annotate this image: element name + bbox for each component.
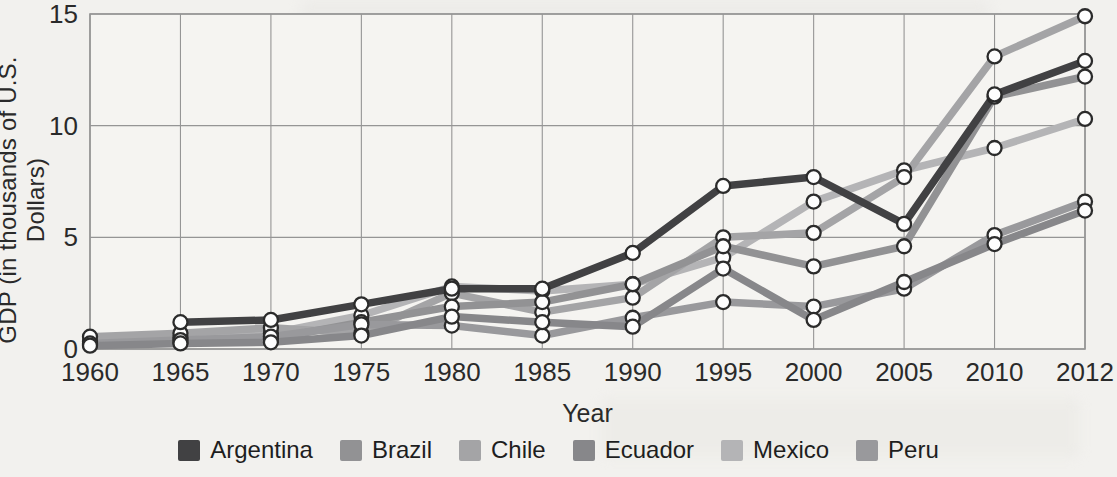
y-tick-label: 15: [49, 0, 78, 29]
legend-item-brazil: Brazil: [340, 436, 432, 464]
data-point-ecuador: [988, 237, 1002, 251]
legend-item-chile: Chile: [459, 436, 546, 464]
data-point-ecuador: [716, 262, 730, 276]
data-point-brazil: [716, 239, 730, 253]
data-point-brazil: [807, 259, 821, 273]
legend-swatch-icon: [573, 440, 595, 461]
data-point-brazil: [897, 239, 911, 253]
data-point-argentina: [716, 179, 730, 193]
data-point-peru: [535, 329, 549, 343]
data-point-ecuador: [83, 339, 97, 353]
data-point-ecuador: [626, 320, 640, 334]
gdp-line-chart-figure: 1960196519701975198019851990199520002005…: [0, 0, 1117, 477]
data-point-ecuador: [445, 310, 459, 324]
data-point-argentina: [445, 282, 459, 296]
legend-label: Mexico: [753, 436, 829, 464]
y-axis-title: GDP (in thousands of U.S. Dollars): [0, 20, 50, 380]
data-point-argentina: [897, 217, 911, 231]
x-tick-label: 2010: [966, 357, 1024, 387]
data-point-ecuador: [264, 335, 278, 349]
data-point-ecuador: [897, 275, 911, 289]
data-point-ecuador: [1078, 204, 1092, 218]
x-tick-label: 1965: [152, 357, 210, 387]
x-tick-label: 1995: [694, 357, 752, 387]
x-tick-label: 1990: [604, 357, 662, 387]
data-point-argentina: [988, 87, 1002, 101]
chart-legend: ArgentinaBrazilChileEcuadorMexicoPeru: [0, 436, 1117, 464]
data-point-brazil: [626, 277, 640, 291]
legend-label: Peru: [888, 436, 939, 464]
legend-swatch-icon: [178, 440, 200, 461]
legend-swatch-icon: [459, 440, 481, 461]
y-tick-label: 0: [64, 334, 78, 364]
data-point-argentina: [354, 297, 368, 311]
legend-label: Argentina: [210, 436, 313, 464]
data-point-chile: [897, 170, 911, 184]
x-tick-label: 1980: [423, 357, 481, 387]
y-tick-label: 5: [64, 222, 78, 252]
data-point-peru: [807, 300, 821, 314]
data-point-mexico: [807, 195, 821, 209]
legend-item-ecuador: Ecuador: [573, 436, 694, 464]
x-tick-label: 1975: [332, 357, 390, 387]
x-tick-label: 1970: [242, 357, 300, 387]
x-tick-label: 1985: [513, 357, 571, 387]
data-point-ecuador: [535, 315, 549, 329]
data-point-argentina: [626, 246, 640, 260]
legend-swatch-icon: [340, 440, 362, 461]
legend-swatch-icon: [856, 440, 878, 461]
data-point-mexico: [988, 141, 1002, 155]
data-point-peru: [716, 295, 730, 309]
data-point-brazil: [535, 295, 549, 309]
data-point-ecuador: [807, 313, 821, 327]
data-point-argentina: [173, 315, 187, 329]
legend-item-mexico: Mexico: [721, 436, 829, 464]
data-point-chile: [626, 291, 640, 305]
legend-item-peru: Peru: [856, 436, 939, 464]
x-tick-label: 2005: [875, 357, 933, 387]
legend-swatch-icon: [721, 440, 743, 461]
legend-label: Ecuador: [605, 436, 694, 464]
data-point-chile: [1078, 9, 1092, 23]
data-point-argentina: [264, 313, 278, 327]
x-axis-title: Year: [90, 399, 1085, 428]
legend-label: Brazil: [372, 436, 432, 464]
legend-item-argentina: Argentina: [178, 436, 313, 464]
x-tick-label: 2012: [1056, 357, 1114, 387]
data-point-mexico: [1078, 112, 1092, 126]
x-tick-label: 2000: [785, 357, 843, 387]
legend-label: Chile: [491, 436, 546, 464]
data-point-brazil: [1078, 70, 1092, 84]
data-point-argentina: [1078, 54, 1092, 68]
data-point-argentina: [807, 170, 821, 184]
data-point-chile: [807, 226, 821, 240]
data-point-chile: [988, 49, 1002, 63]
data-point-argentina: [535, 282, 549, 296]
data-point-ecuador: [354, 329, 368, 343]
data-point-ecuador: [173, 336, 187, 350]
y-tick-label: 10: [49, 111, 78, 141]
